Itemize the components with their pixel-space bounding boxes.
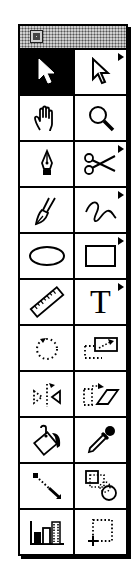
- rectangle-icon: [83, 243, 119, 269]
- tool-row: [20, 372, 126, 418]
- ruler-icon: [27, 286, 67, 318]
- shear-icon: [81, 380, 121, 408]
- tool-freehand[interactable]: [75, 188, 126, 232]
- tool-page[interactable]: [75, 510, 126, 554]
- tool-row: [20, 418, 126, 464]
- tool-auto-trace[interactable]: [75, 464, 126, 508]
- tool-reflect[interactable]: [20, 372, 75, 416]
- tool-eyedropper[interactable]: [75, 418, 126, 462]
- paint-bucket-icon: [30, 424, 64, 456]
- tool-hand[interactable]: [20, 96, 75, 140]
- palette-title-bar[interactable]: [20, 26, 126, 50]
- flyout-indicator-icon: [118, 53, 124, 61]
- tool-row: [20, 142, 126, 188]
- hand-icon: [32, 103, 62, 133]
- tool-brush[interactable]: [20, 188, 75, 232]
- auto-trace-icon: [83, 468, 119, 504]
- flyout-indicator-icon: [118, 191, 124, 199]
- tool-shear[interactable]: [75, 372, 126, 416]
- tool-palette: T: [18, 24, 128, 556]
- tool-graph[interactable]: [20, 510, 75, 554]
- tool-grid: T: [20, 50, 126, 554]
- tool-paint-bucket[interactable]: [20, 418, 75, 462]
- tool-row: [20, 326, 126, 372]
- type-icon: T: [90, 285, 111, 319]
- blend-icon: [30, 470, 64, 502]
- rotate-icon: [32, 333, 62, 363]
- oval-icon: [27, 244, 67, 268]
- tool-row: T: [20, 280, 126, 326]
- tool-row: [20, 510, 126, 554]
- tool-selection[interactable]: [20, 50, 75, 94]
- tool-row: [20, 234, 126, 280]
- tool-zoom[interactable]: [75, 96, 126, 140]
- tool-row: [20, 50, 126, 96]
- tool-rotate[interactable]: [20, 326, 75, 370]
- arrow-pointer-icon: [35, 57, 59, 87]
- tool-row: [20, 188, 126, 234]
- bar-graph-icon: [28, 517, 66, 547]
- tool-type[interactable]: T: [75, 280, 126, 324]
- flyout-indicator-icon: [118, 237, 124, 245]
- reflect-icon: [30, 379, 64, 409]
- flyout-indicator-icon: [118, 145, 124, 153]
- hollow-arrow-pointer-icon: [89, 57, 113, 87]
- tool-row: [20, 96, 126, 142]
- scissors-icon: [83, 151, 119, 177]
- freehand-squiggle-icon: [83, 196, 119, 224]
- pen-nib-icon: [36, 149, 58, 179]
- tool-direct-selection[interactable]: [75, 50, 126, 94]
- magnifier-icon: [86, 103, 116, 133]
- eyedropper-icon: [84, 423, 118, 457]
- tool-oval[interactable]: [20, 234, 75, 278]
- tool-scissors[interactable]: [75, 142, 126, 186]
- tool-blend[interactable]: [20, 464, 75, 508]
- tool-pen[interactable]: [20, 142, 75, 186]
- close-box-icon[interactable]: [30, 30, 43, 43]
- tool-row: [20, 464, 126, 510]
- scale-icon: [82, 334, 120, 362]
- flyout-indicator-icon: [118, 283, 124, 291]
- tool-measure[interactable]: [20, 280, 75, 324]
- tool-rectangle[interactable]: [75, 234, 126, 278]
- brush-icon: [33, 194, 61, 226]
- page-tool-icon: [86, 516, 116, 548]
- tool-scale[interactable]: [75, 326, 126, 370]
